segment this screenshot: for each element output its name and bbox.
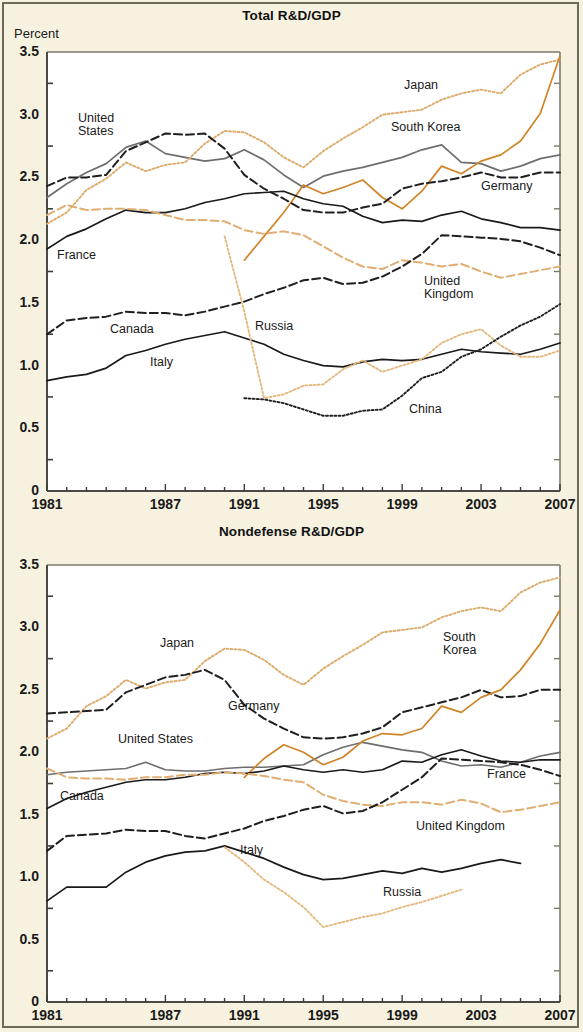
x-tick-label: 1991 xyxy=(214,1007,274,1023)
series-label-france: France xyxy=(57,249,96,262)
y-tick-label: 2.5 xyxy=(0,681,39,697)
y-tick-label: 3.0 xyxy=(0,618,39,634)
x-tick-label: 2007 xyxy=(530,496,583,512)
plot-area-total: 00.51.01.52.02.53.03.5198119871991199519… xyxy=(0,0,583,516)
plot-area-nondefense: 00.51.01.52.02.53.03.5198119871991199519… xyxy=(0,516,583,1032)
series-label-japan: Japan xyxy=(404,79,438,92)
series-label-russia: Russia xyxy=(255,320,293,333)
series-label-italy: Italy xyxy=(240,844,263,857)
series-label-germany: Germany xyxy=(481,180,532,193)
series-label-germany: Germany xyxy=(228,700,279,713)
x-tick-label: 1987 xyxy=(135,496,195,512)
x-tick-label: 1991 xyxy=(214,496,274,512)
y-tick-label: 0.5 xyxy=(0,419,39,435)
series-label-united-states: United States xyxy=(78,112,114,138)
y-tick-label: 3.0 xyxy=(0,106,39,122)
y-tick-label: 1.0 xyxy=(0,868,39,884)
series-label-china: China xyxy=(409,403,442,416)
series-label-south-korea: South Korea xyxy=(443,631,476,657)
y-tick-label: 2.0 xyxy=(0,231,39,247)
x-tick-label: 2003 xyxy=(451,1007,511,1023)
x-tick-label: 1995 xyxy=(293,1007,353,1023)
x-tick-label: 2003 xyxy=(451,496,511,512)
y-tick-label: 1.5 xyxy=(0,294,39,310)
y-tick-label: 2.5 xyxy=(0,168,39,184)
series-label-russia: Russia xyxy=(383,886,421,899)
figure-root: Total R&D/GDP Percent 00.51.01.52.02.53.… xyxy=(0,0,583,1032)
y-tick-label: 2.0 xyxy=(0,743,39,759)
x-tick-label: 1995 xyxy=(293,496,353,512)
y-tick-label: 3.5 xyxy=(0,556,39,572)
y-tick-label: 3.5 xyxy=(0,43,39,59)
chart-panel-total: Total R&D/GDP Percent 00.51.01.52.02.53.… xyxy=(0,0,583,516)
y-tick-label: 1.0 xyxy=(0,357,39,373)
series-label-south-korea: South Korea xyxy=(391,121,461,134)
series-label-united-kingdom: United Kingdom xyxy=(424,275,473,301)
series-label-united-states: United States xyxy=(118,733,193,746)
x-tick-label: 1999 xyxy=(372,1007,432,1023)
y-tick-label: 0.5 xyxy=(0,931,39,947)
x-tick-label: 1999 xyxy=(372,496,432,512)
chart-panel-nondefense: Nondefense R&D/GDP 00.51.01.52.02.53.03.… xyxy=(0,516,583,1032)
series-label-canada: Canada xyxy=(110,323,154,336)
series-label-japan: Japan xyxy=(160,637,194,650)
x-tick-label: 1981 xyxy=(17,496,77,512)
y-tick-label: 1.5 xyxy=(0,806,39,822)
x-tick-label: 1987 xyxy=(135,1007,195,1023)
x-tick-label: 2007 xyxy=(530,1007,583,1023)
series-label-france: France xyxy=(487,768,526,781)
series-label-italy: Italy xyxy=(150,356,173,369)
series-label-canada: Canada xyxy=(60,790,104,803)
series-label-united-kingdom: United Kingdom xyxy=(416,820,505,833)
x-tick-label: 1981 xyxy=(17,1007,77,1023)
